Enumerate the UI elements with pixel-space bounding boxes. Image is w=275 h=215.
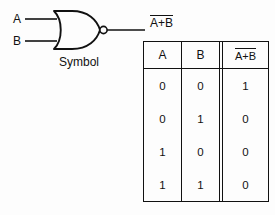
column-a-values: 0 0 1 1 [144, 69, 181, 201]
table-cell: 1 [144, 168, 181, 201]
symbol-caption: Symbol [47, 55, 111, 69]
table-cell: 0 [223, 135, 268, 168]
column-header-output: A+B [223, 42, 268, 69]
table-cell: 0 [182, 135, 219, 168]
separator-body [220, 69, 222, 201]
table-cell: 1 [223, 69, 268, 102]
input-a-label: A [13, 13, 21, 25]
column-b-values: 0 1 0 1 [182, 69, 219, 201]
nor-gate-figure: A B Symbol A+B A 0 0 1 1 B [0, 0, 275, 215]
separator-head [220, 42, 222, 69]
output-expression-label: A+B [150, 16, 173, 30]
inversion-bubble-icon [100, 26, 107, 33]
table-cell: 0 [144, 69, 181, 102]
input-b-label: B [13, 35, 21, 47]
table-cell: 0 [223, 168, 268, 201]
overbar-wrapper: A+B [235, 49, 256, 62]
column-header-a: A [144, 42, 181, 69]
table-cell: 0 [223, 102, 268, 135]
column-output-values: 1 0 0 0 [223, 69, 268, 201]
overbar-line [150, 15, 173, 16]
table-cell: 0 [144, 102, 181, 135]
column-header-output-text: A+B [235, 49, 256, 62]
table-cell: 1 [182, 168, 219, 201]
truth-table-column-output: A+B 1 0 0 0 [223, 42, 268, 201]
overbar-line [235, 48, 256, 49]
output-expression-text: A+B [150, 16, 173, 30]
table-cell: 1 [182, 102, 219, 135]
or-gate-body [54, 11, 100, 49]
overbar-wrapper: A+B [150, 16, 173, 30]
table-cell: 1 [144, 135, 181, 168]
column-header-b: B [182, 42, 219, 69]
truth-table: A 0 0 1 1 B 0 1 0 1 [143, 41, 269, 202]
truth-table-column-a: A 0 0 1 1 [144, 42, 182, 201]
truth-table-column-b: B 0 1 0 1 [182, 42, 220, 201]
gate-symbol-group: A B Symbol [0, 0, 145, 80]
nor-gate-icon [0, 0, 145, 60]
table-cell: 0 [182, 69, 219, 102]
